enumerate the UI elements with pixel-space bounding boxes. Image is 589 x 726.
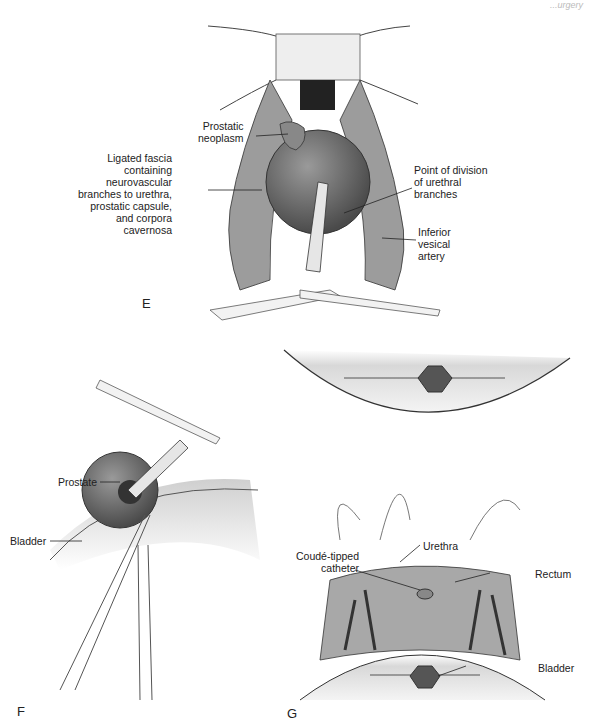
label-ligated-fascia: Ligated fascia containing neurovascular … [78,152,172,236]
label-coude-catheter: Coudé-tipped catheter [296,550,359,574]
label-point-of-division: Point of division of urethral branches [414,164,488,200]
panel-g-lower-drawing [300,494,545,700]
panel-letter-e: E [142,296,151,311]
panel-e-drawing [208,26,440,320]
surgical-illustration [0,0,589,726]
panel-letter-g: G [287,706,297,721]
label-urethra: Urethra [423,540,458,552]
panel-letter-f: F [17,704,25,719]
label-prostate: Prostate [58,476,97,488]
label-rectum: Rectum [535,568,571,580]
label-inferior-vesical-artery: Inferior vesical artery [418,226,451,262]
label-bladder-f: Bladder [10,535,46,547]
label-bladder-g: Bladder [538,662,574,674]
panel-g-upper-drawing [284,350,570,412]
panel-f-drawing [50,380,260,700]
label-prostatic-neoplasm: Prostatic neoplasm [198,120,244,144]
